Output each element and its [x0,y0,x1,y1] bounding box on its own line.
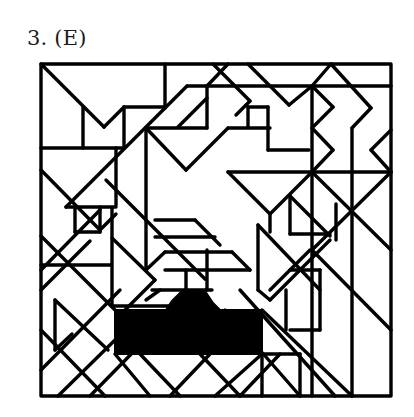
puzzle-figure [0,0,414,417]
filled-shape [115,291,262,354]
